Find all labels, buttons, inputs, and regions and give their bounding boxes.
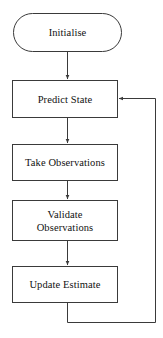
node-predict-state-shape <box>13 81 118 118</box>
flowchart-diagram: Initialise Predict State Take Observatio… <box>0 0 163 338</box>
flowchart-canvas <box>0 0 163 338</box>
node-update-estimate-shape <box>13 267 118 303</box>
node-validate-observations-shape <box>13 201 118 241</box>
node-take-observations-shape <box>13 145 118 181</box>
node-initialise-shape <box>14 14 122 52</box>
